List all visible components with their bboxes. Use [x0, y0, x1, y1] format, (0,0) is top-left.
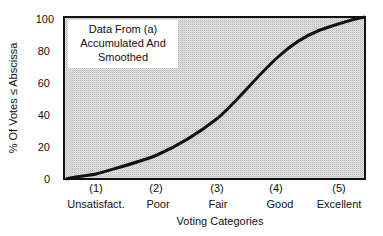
chart-canvas: 0 20 40 60 80 100 (1) (2) (3) (4) (5) Un…: [0, 0, 383, 236]
svg-text:Unsatisfact.: Unsatisfact.: [67, 198, 124, 210]
annotation-box: Data From (a) Accumulated And Smoothed: [68, 20, 178, 68]
svg-text:Good: Good: [267, 198, 294, 210]
svg-text:20: 20: [38, 141, 50, 153]
svg-text:60: 60: [38, 77, 50, 89]
y-axis-label: % Of Votes ≤ Abscissa: [7, 33, 19, 163]
y-tick-labels: 0 20 40 60 80 100: [36, 13, 54, 185]
x-category-names: Unsatisfact. Poor Fair Good Excellent: [67, 198, 361, 210]
svg-text:(4): (4): [269, 182, 282, 194]
svg-text:0: 0: [44, 173, 50, 185]
svg-text:100: 100: [36, 13, 54, 25]
x-category-numbers: (1) (2) (3) (4) (5): [89, 182, 345, 194]
svg-text:(5): (5): [332, 182, 345, 194]
annotation-line-2: Accumulated And: [68, 36, 178, 50]
annotation-line-3: Smoothed: [68, 50, 178, 64]
svg-text:(3): (3): [210, 182, 223, 194]
svg-text:(2): (2): [149, 182, 162, 194]
svg-text:80: 80: [38, 45, 50, 57]
svg-text:Poor: Poor: [146, 198, 170, 210]
annotation-line-1: Data From (a): [68, 22, 178, 36]
svg-text:Fair: Fair: [209, 198, 228, 210]
x-axis-label: Voting Categories: [150, 215, 290, 227]
svg-text:40: 40: [38, 109, 50, 121]
svg-text:Excellent: Excellent: [317, 198, 362, 210]
svg-text:(1): (1): [89, 182, 102, 194]
